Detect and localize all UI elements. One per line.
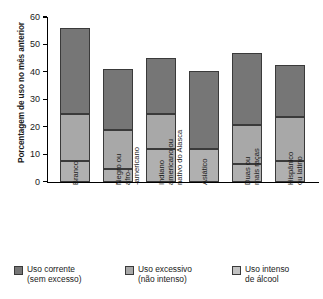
x-axis-label: Asiático — [189, 185, 219, 194]
legend-label: Uso corrente(sem excesso) — [27, 264, 81, 285]
x-axis-label-line: Asiático — [201, 115, 210, 185]
x-axis-label-line: ou latino — [296, 115, 305, 185]
legend-item: Uso excessivo(não intenso) — [125, 264, 224, 285]
legend-label-line1: Uso intenso — [245, 264, 289, 274]
legend-label-line2: (não intenso) — [138, 274, 192, 284]
x-axis-label-line: mais raças — [253, 115, 262, 185]
y-tick-label: 50 — [30, 39, 40, 49]
legend-label: Uso intensode álcool — [245, 264, 289, 285]
legend-item: Uso intensode álcool — [232, 264, 314, 285]
y-tick-label: 30 — [30, 94, 40, 104]
stacked-bar-chart: Porcentagem de uso no mês anterior 01020… — [0, 0, 323, 299]
legend-label: Uso excessivo(não intenso) — [138, 264, 192, 285]
x-axis-label: Branco — [60, 185, 90, 194]
bar-segment — [60, 28, 90, 114]
legend-label-line2: (sem excesso) — [27, 274, 81, 284]
y-tick-label: 40 — [30, 67, 40, 77]
legend-label-line2: de álcool — [245, 274, 289, 284]
legend-swatch — [232, 266, 241, 275]
y-tick-label: 60 — [30, 12, 40, 22]
x-axis-label: Hispânicoou latino — [275, 185, 305, 194]
y-tick-label: 10 — [30, 149, 40, 159]
y-tick-label: 20 — [30, 122, 40, 132]
legend-item: Uso corrente(sem excesso) — [14, 264, 117, 285]
bar-segment — [275, 65, 305, 117]
x-axis-label: Duas oumais raças — [232, 185, 262, 194]
y-axis-title: Porcentagem de uso no mês anterior — [17, 3, 26, 183]
legend-label-line1: Uso excessivo — [138, 264, 192, 274]
legend-swatch — [14, 266, 23, 275]
x-axis-label: Negro ouafro--americano — [103, 185, 133, 194]
x-axis-labels: BrancoNegro ouafro--americanoIndianoamer… — [47, 185, 319, 257]
legend-label-line1: Uso corrente — [27, 264, 75, 274]
x-axis-label-line: Branco — [72, 115, 81, 185]
x-axis-label-line: nativo do Alasca — [176, 115, 185, 185]
x-axis-label: Indianoamericano ounativo do Alasca — [146, 185, 176, 194]
bar-segment — [146, 58, 176, 114]
y-tick-label: 0 — [35, 177, 40, 187]
x-axis-label-line: -americano — [133, 115, 142, 185]
legend-swatch — [125, 266, 134, 275]
chart-legend: Uso corrente(sem excesso)Uso excessivo(n… — [14, 264, 314, 285]
